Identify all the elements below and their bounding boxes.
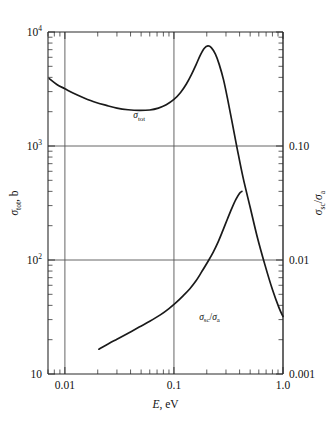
curve-label-sigma-sc-over-sigma-a: σsc/σa xyxy=(199,312,220,324)
x-axis-title: E, eV xyxy=(151,398,179,411)
figure-container: 101021031040.0010.010.100.010.11.0 E, eV… xyxy=(0,0,335,429)
x-tick-label: 1.0 xyxy=(276,379,291,391)
chart-background xyxy=(0,0,335,429)
x-tick-label: 0.01 xyxy=(55,379,75,391)
y-right-tick-label: 0.01 xyxy=(289,254,309,266)
y-right-tick-label: 0.10 xyxy=(289,140,309,152)
x-tick-label: 0.1 xyxy=(167,379,182,391)
y-left-tick-label: 10 xyxy=(31,368,43,380)
y-right-tick-label: 0.001 xyxy=(289,368,315,380)
log-log-chart: 101021031040.0010.010.100.010.11.0 E, eV… xyxy=(0,0,335,429)
